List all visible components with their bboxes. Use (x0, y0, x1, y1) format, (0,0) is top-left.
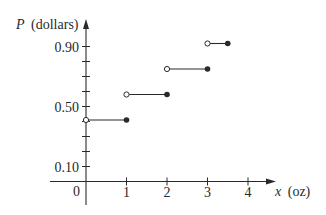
step-segment (164, 66, 210, 72)
x-axis-label: x (oz) (274, 184, 311, 200)
open-endpoint-icon (124, 92, 129, 97)
y-axis-label: P (dollars) (15, 17, 79, 33)
x-tick-label: 3 (204, 185, 211, 200)
step-segment (205, 41, 231, 47)
step-segment (83, 117, 129, 123)
open-endpoint-icon (205, 41, 210, 46)
open-endpoint-icon (164, 66, 169, 71)
y-tick-label: 0.90 (55, 40, 80, 55)
origin-label: 0 (73, 184, 80, 199)
x-axis-ticks: 1234 (123, 178, 252, 201)
closed-endpoint-icon (164, 92, 170, 98)
closed-endpoint-icon (124, 117, 130, 123)
x-tick-label: 2 (164, 185, 171, 200)
open-endpoint-icon (83, 117, 88, 122)
x-axis-unit: (oz) (288, 184, 311, 200)
closed-endpoint-icon (205, 66, 211, 72)
step-segments (83, 41, 230, 123)
x-tick-label: 1 (123, 185, 130, 200)
y-tick-label: 0.50 (55, 100, 80, 115)
closed-endpoint-icon (225, 41, 231, 47)
step-function-chart: 0.100.500.90 1234 P (dollars) x (oz) 0 (0, 0, 326, 215)
x-tick-label: 4 (245, 185, 252, 200)
y-tick-label: 0.10 (55, 160, 80, 175)
y-axis-unit: (dollars) (31, 17, 79, 33)
step-segment (124, 92, 170, 98)
x-axis-variable: x (274, 184, 282, 199)
y-axis-variable: P (15, 17, 25, 32)
y-axis-arrow-icon (83, 19, 89, 29)
y-axis-ticks: 0.100.500.90 (55, 40, 91, 175)
